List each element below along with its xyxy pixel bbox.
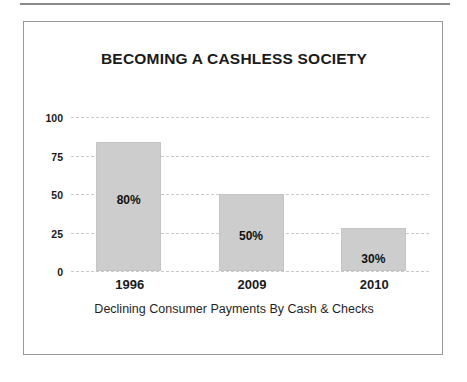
bar-value-label: 30% [342, 252, 405, 266]
y-axis-tick-label: 75 [51, 151, 63, 163]
y-axis-tick-label: 0 [57, 266, 63, 278]
bar-value-label: 80% [97, 193, 160, 207]
bar: 80%1996 [96, 142, 161, 271]
chart-caption: Declining Consumer Payments By Cash & Ch… [24, 302, 444, 316]
bar: 50%2009 [219, 194, 284, 271]
gridline: 100 [71, 117, 429, 118]
x-axis-tick-label: 2010 [342, 277, 407, 292]
plot-area: 1007550250 80%199650%200930%2010 [71, 117, 429, 271]
y-axis-tick-label: 100 [45, 112, 63, 124]
x-axis-tick-label: 2009 [220, 277, 285, 292]
gridline: 0 [71, 271, 429, 272]
bar-value-label: 50% [220, 229, 283, 243]
chart-title: BECOMING A CASHLESS SOCIETY [24, 50, 444, 68]
top-divider-rule [20, 3, 450, 5]
bar: 30%2010 [341, 228, 406, 271]
chart-frame: BECOMING A CASHLESS SOCIETY 1007550250 8… [23, 21, 443, 355]
y-axis-tick-label: 25 [51, 228, 63, 240]
x-axis-tick-label: 1996 [97, 277, 162, 292]
y-axis-tick-label: 50 [51, 189, 63, 201]
